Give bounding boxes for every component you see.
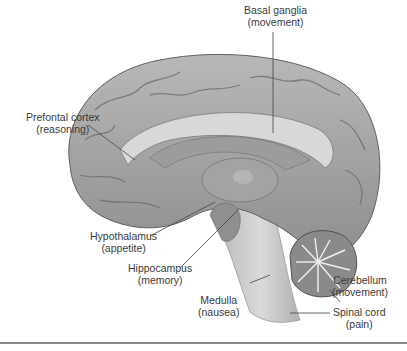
label-medulla: Medulla (nausea) (198, 294, 239, 318)
label-hypothalamus: Hypothalamus (appetite) (90, 230, 157, 254)
label-prefrontal-cortex: Prefontal cortex (reasoning) (26, 111, 100, 135)
label-hippocampus: Hippocampus (memory) (128, 262, 192, 286)
label-basal-ganglia: Basal ganglia (movement) (244, 4, 307, 28)
label-spinal-cord: Spinal cord (pain) (333, 306, 386, 330)
label-cerebellum: Cerebellum (movement) (332, 274, 388, 298)
bottom-divider (0, 342, 407, 344)
